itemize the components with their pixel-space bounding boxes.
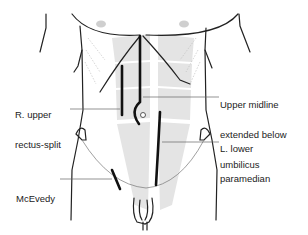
label-line: Upper midline [220,100,287,110]
label-line: paramedian [220,174,270,184]
right-nipple [96,21,106,28]
umbilicus [141,113,146,118]
label-line: L. lower [220,144,270,154]
incision-mcevedy [112,170,120,189]
label-line: McEvedy [16,194,55,204]
label-l-lower-paramedian: L. lower paramedian [220,124,270,204]
label-mcevedy: McEvedy [16,174,55,224]
left-nipple [179,21,189,28]
label-r-upper-rectus-split: R. upper rectus-split [15,90,61,170]
label-line: rectus-split [15,140,61,150]
rectus-shading [112,34,194,210]
label-line: R. upper [15,110,61,120]
abdominal-incisions-diagram: R. upper rectus-split Upper midline exte… [0,0,308,235]
